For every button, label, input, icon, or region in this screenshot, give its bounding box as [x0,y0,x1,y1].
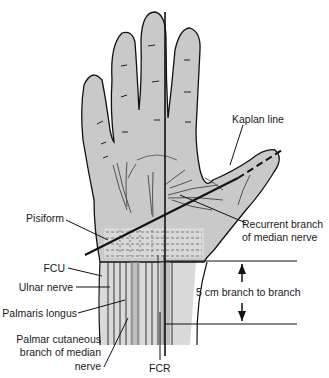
label-ulnar-nerve: Ulnar nerve [19,281,73,294]
label-fcr: FCR [149,362,171,375]
label-fcu: FCU [43,262,65,275]
label-palmar-cutaneous-1: Palmar cutaneous [16,333,101,346]
label-recurrent-branch-1: Recurrent branch [242,218,323,231]
label-palmar-cutaneous-2: branch of median [20,346,101,359]
label-palmaris-longus: Palmaris longus [2,307,77,320]
label-distance: 5 cm branch to branch [196,286,300,299]
label-palmar-cutaneous-3: nerve [75,360,101,373]
label-kaplan-line: Kaplan line [232,113,284,126]
hand-anatomy-illustration [0,0,329,378]
label-recurrent-branch-2: of median nerve [242,231,317,244]
label-pisiform: Pisiform [26,212,64,225]
